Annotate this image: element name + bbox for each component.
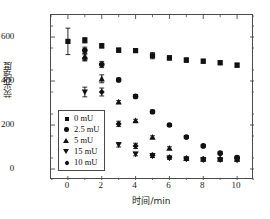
legend-marker-triangle-down-icon	[62, 147, 71, 156]
x-tick-label: 0	[55, 181, 79, 190]
legend-marker-circle-icon	[62, 125, 71, 134]
legend-item[interactable]: 15 mU	[62, 146, 100, 157]
x-tick-label: 8	[190, 181, 214, 190]
x-axis-label: 时间/min	[50, 194, 253, 207]
legend-label: 0 mU	[74, 114, 93, 123]
legend-label: 10 mU	[74, 158, 97, 167]
x-tick-label: 10	[224, 181, 248, 190]
y-tick-label: 200	[0, 120, 14, 129]
y-tick-label: 0	[0, 164, 14, 173]
x-tick-label: 6	[156, 181, 180, 190]
x-tick-label: 4	[123, 181, 147, 190]
y-tick-label: 600	[0, 32, 14, 41]
legend: 0 mU2.5 mU5 mU15 mU10 mU	[58, 110, 105, 171]
legend-item[interactable]: 0 mU	[62, 113, 100, 124]
legend-item[interactable]: 5 mU	[62, 135, 100, 146]
legend-item[interactable]: 2.5 mU	[62, 124, 100, 135]
legend-item[interactable]: 10 mU	[62, 157, 100, 168]
y-tick-label: 400	[0, 76, 14, 85]
legend-label: 2.5 mU	[74, 125, 100, 134]
legend-label: 15 mU	[74, 147, 97, 156]
legend-marker-diamond-icon	[62, 158, 71, 167]
figure: 荧光强度 0200400600 0246810 时间/min 0 mU2.5 m…	[0, 0, 270, 219]
legend-marker-triangle-up-icon	[62, 136, 71, 145]
legend-label: 5 mU	[74, 136, 93, 145]
legend-marker-square-icon	[62, 114, 71, 123]
x-tick-label: 2	[89, 181, 113, 190]
